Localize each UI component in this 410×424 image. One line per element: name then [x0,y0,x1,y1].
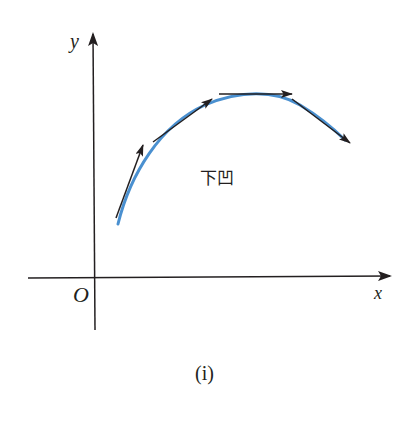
diagram-canvas [0,0,410,424]
concavity-diagram: y x O 下凹 (i) [0,0,410,424]
y-axis [93,34,95,330]
x-axis-label: x [374,283,382,304]
figure-caption: (i) [195,362,214,385]
y-axis-label: y [70,30,79,53]
tangent-arrow-1 [116,145,143,218]
x-axis [28,276,390,278]
origin-label: O [73,282,89,308]
tangent-arrow-4 [292,99,350,143]
concave-down-label: 下凹 [200,164,234,189]
tangent-arrow-2 [153,99,212,142]
